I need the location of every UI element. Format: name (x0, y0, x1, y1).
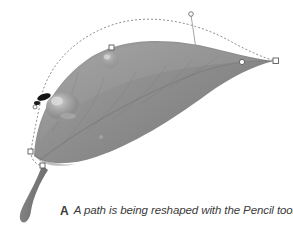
figure-caption-text: A path is being reshaped with the Pencil… (74, 205, 293, 217)
droplet-lower-highlight (51, 97, 63, 106)
anchor-point-top-left-mid[interactable] (109, 45, 114, 50)
anchor-point-stem-joint[interactable] (40, 163, 45, 168)
droplet-small (99, 135, 103, 139)
anchor-point-right-tip[interactable] (273, 58, 279, 64)
anchor-point-left-base[interactable] (28, 149, 33, 154)
droplet-lower-rim-light (60, 113, 76, 119)
droplet-upper (101, 52, 119, 68)
anchor-point-right-inner[interactable] (239, 59, 244, 64)
droplet-upper-highlight (104, 55, 110, 60)
leaf-graphic (20, 41, 274, 222)
direction-handle-left-endpoint[interactable] (33, 105, 37, 109)
figure-caption: A A path is being reshaped with the Penc… (0, 198, 293, 224)
figure-caption-label: A (60, 205, 69, 217)
direction-handle-upper-right[interactable] (191, 15, 196, 49)
figure-container: A A path is being reshaped with the Penc… (0, 0, 293, 232)
direction-handle-upper-right-endpoint[interactable] (189, 12, 194, 17)
